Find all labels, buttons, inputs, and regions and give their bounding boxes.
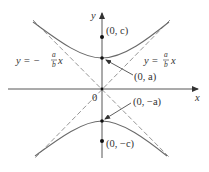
svg-text:x: x — [57, 55, 63, 66]
asymptote-label-negative: y = − a b x — [15, 50, 63, 69]
asymptote-label-positive: y = a b x — [143, 50, 176, 69]
origin-label: 0 — [92, 92, 97, 103]
label-focus-bottom: (0, −c) — [106, 138, 135, 150]
point-origin — [101, 88, 104, 91]
point-vertex-top — [100, 56, 104, 60]
svg-text:y =: y = — [143, 55, 158, 66]
svg-text:b: b — [164, 60, 168, 69]
svg-text:a: a — [52, 50, 56, 59]
hyperbola-figure: y x 0 (0, c) (0, a) (0, −a) (0, −c) y = … — [0, 0, 209, 172]
label-vertex-top: (0, a) — [134, 71, 157, 83]
hyperbola-lower-branch — [35, 121, 167, 156]
svg-text:y = −: y = − — [15, 55, 40, 66]
x-axis-label: x — [194, 92, 200, 103]
label-vertex-bottom: (0, −a) — [133, 96, 162, 108]
svg-text:b: b — [52, 60, 56, 69]
y-axis-label: y — [90, 10, 96, 21]
point-vertex-bottom — [100, 119, 104, 123]
pointer-vertex-top-arrow — [106, 60, 133, 75]
point-focus-top — [100, 35, 104, 39]
point-focus-bottom — [100, 139, 104, 143]
label-focus-top: (0, c) — [106, 25, 129, 37]
svg-text:x: x — [170, 55, 176, 66]
svg-text:a: a — [164, 50, 168, 59]
